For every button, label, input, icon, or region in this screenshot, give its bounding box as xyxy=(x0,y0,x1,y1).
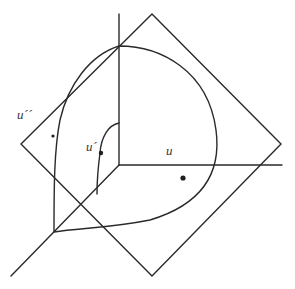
point-u-prime xyxy=(99,151,103,155)
surface-patch-outline xyxy=(54,46,217,232)
tilted-plane xyxy=(21,14,281,276)
point-u-double-prime xyxy=(51,134,54,137)
label-u-double-prime: u´´ xyxy=(17,108,32,121)
diagonal-axis xyxy=(11,165,119,276)
point-u xyxy=(180,175,185,180)
label-u: u xyxy=(166,144,173,157)
label-u-prime: u´ xyxy=(86,140,97,153)
diagram-svg xyxy=(0,0,295,289)
